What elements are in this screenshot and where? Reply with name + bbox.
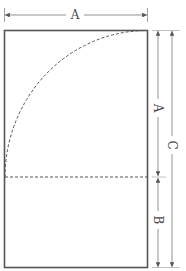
outer-rectangle (5, 31, 148, 268)
label-height-a: A (151, 103, 165, 113)
label-height-c: C (165, 140, 179, 149)
quarter-circle-arc (5, 31, 147, 178)
diagram-canvas: A A B C (0, 0, 186, 271)
label-height-b: B (151, 216, 165, 225)
label-width-a: A (70, 8, 80, 22)
